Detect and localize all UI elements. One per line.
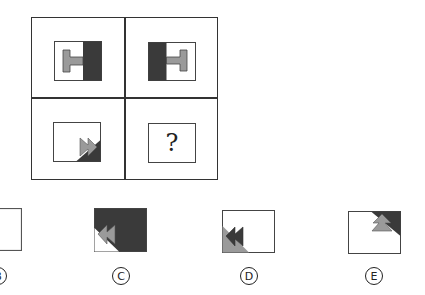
double-arrow-left-gray-corner-icon <box>222 210 275 253</box>
option-c-label[interactable]: C <box>111 264 131 285</box>
option-c-figure[interactable] <box>94 208 147 252</box>
cell-bottom-left-figure <box>53 122 101 162</box>
cell-top-left-figure <box>54 41 102 81</box>
cell-top-right-figure <box>148 42 196 81</box>
option-e-figure[interactable] <box>348 211 401 254</box>
grid-horizontal-divider <box>31 97 218 99</box>
option-b-label[interactable]: B <box>0 264 8 285</box>
i-beam-left-icon <box>148 42 196 81</box>
double-arrow-up-icon <box>348 211 401 254</box>
option-d-figure[interactable] <box>222 210 275 253</box>
option-e-label[interactable]: E <box>364 264 384 285</box>
double-arrow-right-icon <box>53 122 101 162</box>
empty-box-icon <box>0 208 22 251</box>
option-b-figure[interactable] <box>0 208 22 251</box>
i-beam-right-icon <box>54 41 102 81</box>
double-arrow-left-dark-bg-icon <box>94 208 147 252</box>
grid-vertical-divider <box>124 17 126 180</box>
question-mark-cell: ? <box>148 123 196 163</box>
option-d-label[interactable]: D <box>239 264 259 285</box>
